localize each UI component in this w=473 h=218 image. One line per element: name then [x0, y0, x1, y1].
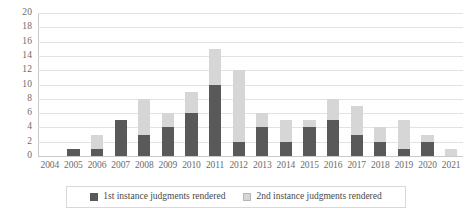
bar-segment-series-2 — [138, 99, 150, 135]
bar-stack — [185, 92, 197, 156]
bar-segment-series-2 — [351, 106, 363, 135]
bar-slot — [203, 13, 227, 156]
bar-segment-series-1 — [421, 142, 433, 156]
x-axis-tick-label: 2012 — [227, 157, 251, 173]
y-axis-tick-label: 12 — [2, 65, 32, 75]
x-axis-tick-label: 2007 — [109, 157, 133, 173]
chart-legend: 1st instance judgments rendered2nd insta… — [66, 186, 406, 208]
y-axis-tick-label: 6 — [2, 108, 32, 118]
bar-segment-series-2 — [185, 92, 197, 113]
bar-stack — [280, 120, 292, 156]
bar-segment-series-1 — [162, 127, 174, 156]
y-axis-tick-label: 16 — [2, 37, 32, 47]
bar-segment-series-2 — [303, 120, 315, 127]
bar-slot — [227, 13, 251, 156]
bar-segment-series-2 — [398, 120, 410, 149]
bar-segment-series-1 — [138, 135, 150, 156]
bar-segment-series-1 — [280, 142, 292, 156]
bar-segment-series-1 — [398, 149, 410, 156]
bar-segment-series-1 — [67, 149, 79, 156]
x-axis-tick-label: 2005 — [62, 157, 86, 173]
bar-slot — [392, 13, 416, 156]
bar-stack — [115, 120, 127, 156]
bar-slot — [180, 13, 204, 156]
y-axis-tick-label: 14 — [2, 51, 32, 61]
bar-slot — [369, 13, 393, 156]
y-axis-tick-label: 4 — [2, 123, 32, 133]
bar-segment-series-2 — [256, 113, 268, 127]
bar-segment-series-2 — [233, 70, 245, 142]
bar-segment-series-2 — [374, 127, 386, 141]
x-axis-tick-label: 2017 — [345, 157, 369, 173]
bar-segment-series-2 — [162, 113, 174, 127]
x-axis-tick-label: 2016 — [321, 157, 345, 173]
x-axis-tick-label: 2011 — [203, 157, 227, 173]
bar-slot — [321, 13, 345, 156]
x-axis-tick-label: 2010 — [180, 157, 204, 173]
bar-stack — [374, 127, 386, 156]
bar-segment-series-1 — [91, 149, 103, 156]
bar-slot — [345, 13, 369, 156]
bar-series-group — [38, 13, 463, 156]
bar-segment-series-1 — [233, 142, 245, 156]
plot-area: 20181614121086420 — [38, 13, 463, 156]
x-axis-tick-label: 2004 — [38, 157, 62, 173]
bar-stack — [138, 99, 150, 156]
x-axis-tick-label: 2015 — [298, 157, 322, 173]
x-axis-tick-label: 2006 — [85, 157, 109, 173]
legend-item: 1st instance judgments rendered — [90, 192, 225, 202]
bar-segment-series-1 — [209, 85, 221, 157]
y-axis-tick-label: 8 — [2, 94, 32, 104]
bar-segment-series-1 — [115, 120, 127, 156]
bar-segment-series-1 — [303, 127, 315, 156]
legend-label: 2nd instance judgments rendered — [256, 192, 381, 202]
bar-segment-series-2 — [421, 135, 433, 142]
x-axis-tick-label: 2021 — [439, 157, 463, 173]
bar-slot — [85, 13, 109, 156]
bar-stack — [421, 135, 433, 156]
bar-stack — [398, 120, 410, 156]
y-axis-tick-label: 0 — [2, 151, 32, 161]
bar-segment-series-1 — [256, 127, 268, 156]
bar-stack — [209, 49, 221, 156]
bar-stack — [351, 106, 363, 156]
bar-segment-series-1 — [351, 135, 363, 156]
x-axis-tick-label: 2014 — [274, 157, 298, 173]
dark-gray-swatch — [90, 193, 98, 201]
bar-stack — [233, 70, 245, 156]
x-axis-tick-label: 2018 — [369, 157, 393, 173]
x-axis-tick-labels: 2004200520062007200820092010201120122013… — [38, 157, 463, 173]
bar-stack — [445, 149, 457, 156]
bar-slot — [156, 13, 180, 156]
bar-stack — [327, 99, 339, 156]
bar-slot — [416, 13, 440, 156]
light-gray-swatch — [243, 193, 251, 201]
y-axis-tick-label: 18 — [2, 23, 32, 33]
bar-segment-series-2 — [280, 120, 292, 141]
bar-slot — [62, 13, 86, 156]
x-axis-tick-label: 2020 — [416, 157, 440, 173]
bar-slot — [38, 13, 62, 156]
bar-slot — [274, 13, 298, 156]
bar-segment-series-1 — [327, 120, 339, 156]
x-axis-tick-label: 2009 — [156, 157, 180, 173]
bar-slot — [250, 13, 274, 156]
bar-stack — [162, 113, 174, 156]
stacked-bar-chart: 20181614121086420 2004200520062007200820… — [0, 0, 473, 218]
legend-label: 1st instance judgments rendered — [103, 192, 225, 202]
bar-slot — [298, 13, 322, 156]
x-axis-tick-label: 2008 — [132, 157, 156, 173]
bar-segment-series-2 — [209, 49, 221, 85]
legend-item: 2nd instance judgments rendered — [243, 192, 381, 202]
bar-stack — [303, 120, 315, 156]
bar-slot — [439, 13, 463, 156]
bar-stack — [91, 135, 103, 156]
bar-stack — [256, 113, 268, 156]
y-axis-tick-label: 2 — [2, 137, 32, 147]
y-axis-tick-label: 20 — [2, 8, 32, 18]
y-axis-tick-label: 10 — [2, 80, 32, 90]
bar-segment-series-1 — [374, 142, 386, 156]
bar-segment-series-1 — [185, 113, 197, 156]
bar-segment-series-2 — [327, 99, 339, 120]
bar-segment-series-2 — [445, 149, 457, 156]
